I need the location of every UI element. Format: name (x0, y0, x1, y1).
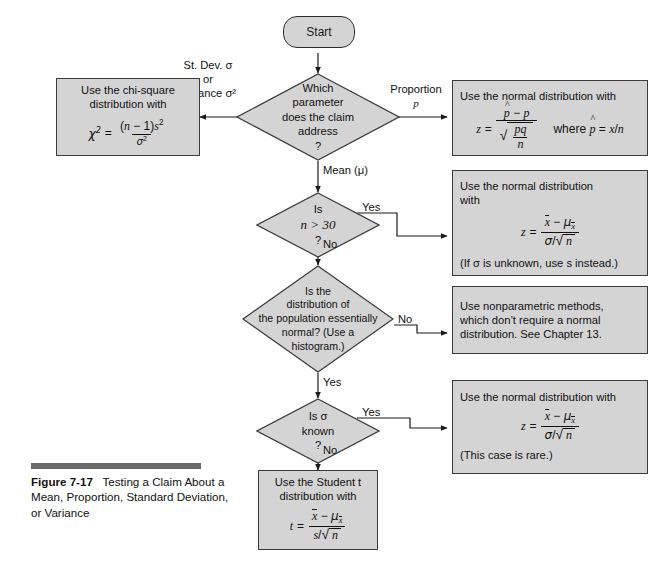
line: parameter (293, 95, 344, 110)
formula-proportion: z= p − p √ pq n (476, 107, 624, 151)
node-box-nonparametric[interactable]: Use nonparametric methods, which don’t r… (452, 286, 648, 354)
node-start-label: Start (306, 25, 331, 39)
line: n > 30 (301, 217, 336, 234)
line: the population essentially (259, 312, 378, 326)
line: histogram.) (292, 340, 345, 354)
line: Is (314, 202, 323, 217)
figure-caption: Figure 7-17 Testing a Claim About a Mean… (31, 474, 231, 520)
line: ? (315, 233, 321, 248)
box-line: Use the Student t (275, 475, 361, 489)
box-line: Use the chi-square (81, 83, 175, 97)
line: does the claim (282, 110, 354, 125)
line: distribution of (286, 298, 349, 312)
box-line: with (460, 193, 480, 207)
edge-label-line: St. Dev. σ (150, 58, 266, 72)
line: normal? (Use a (282, 326, 354, 340)
edge-normal-no (394, 325, 447, 333)
box-line: distribution with (279, 489, 356, 503)
box-note: (This case is rare.) (460, 448, 553, 462)
line: Which (302, 81, 333, 96)
edge-label-proportion: Proportion p (381, 82, 451, 110)
formula-sigma-known: z= x − μx σ/√n (521, 410, 579, 442)
flowchart-canvas: Start Which parameter does the claim add… (0, 0, 669, 565)
line: ? (315, 139, 321, 154)
edge-label-n30-yes: Yes (362, 200, 380, 214)
box-line: Use nonparametric methods, (460, 299, 604, 313)
line: Is σ (309, 409, 328, 424)
box-line: distribution with (89, 97, 166, 111)
formula-student-t: t= x − μx s/√n (290, 510, 347, 542)
line: ? (315, 438, 321, 453)
box-line: which don’t require a normal (460, 313, 601, 327)
edge-label-line: p (381, 96, 451, 110)
node-box-sigma-known-normal[interactable]: Use the normal distribution with z= x − … (452, 380, 648, 474)
formula-chisquare: χ2 = (n − 1)s2 σ2 (89, 118, 168, 147)
formula-n30: z= x − μx σ/√n (521, 216, 579, 248)
edge-label-sigma-no: No (323, 443, 337, 457)
box-line: Use the normal distribution with (460, 89, 616, 103)
node-box-chisquare[interactable]: Use the chi-square distribution with χ2 … (56, 78, 200, 156)
line: known (302, 424, 334, 439)
edge-label-normality-no: No (398, 312, 412, 326)
node-decision-normality-label: Is the distribution of the population es… (242, 265, 394, 373)
box-line: Use the normal distribution (460, 179, 593, 193)
caption-rule (31, 463, 201, 469)
node-box-n30-normal[interactable]: Use the normal distribution with z= x − … (452, 170, 648, 276)
edge-label-normality-yes: Yes (323, 375, 341, 389)
line: Is the (305, 285, 331, 299)
edge-label-n30-no: No (323, 237, 337, 251)
node-start[interactable]: Start (283, 16, 355, 48)
edge-label-mean: Mean (μ) (323, 163, 368, 177)
node-decision-normality[interactable]: Is the distribution of the population es… (242, 265, 394, 373)
line: address (298, 124, 338, 139)
box-note: (If σ is unknown, use s instead.) (460, 256, 618, 270)
edge-label-line: Proportion (381, 82, 451, 96)
node-box-proportion[interactable]: Use the normal distribution with z= p − … (452, 80, 648, 156)
box-line: distribution. See Chapter 13. (460, 327, 602, 341)
edge-label-sigma-yes: Yes (362, 405, 380, 419)
box-line: Use the normal distribution with (460, 390, 616, 404)
node-box-student-t[interactable]: Use the Student t distribution with t= x… (258, 470, 378, 550)
figure-number: Figure 7-17 (31, 475, 93, 488)
